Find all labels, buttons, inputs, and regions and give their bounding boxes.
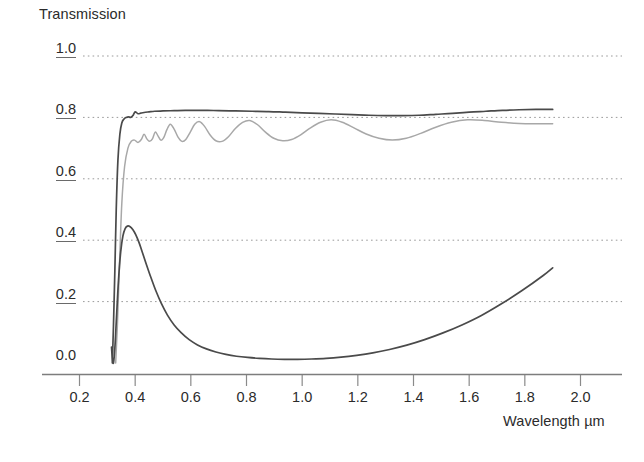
x-tick-label: 2.0 — [570, 389, 590, 405]
upper-transmission-curve — [112, 109, 552, 363]
x-tick-label: 0.4 — [125, 389, 145, 405]
x-tick-label: 1.8 — [515, 389, 535, 405]
x-tick-label: 0.6 — [181, 389, 201, 405]
absorption-transmission-curve — [112, 226, 553, 363]
x-tick-label: 1.2 — [348, 389, 368, 405]
y-tick-label: 0.6 — [36, 163, 76, 181]
gridlines — [83, 56, 622, 302]
y-tick-label: 1.0 — [36, 40, 76, 58]
y-tick-label: 0.4 — [36, 224, 76, 242]
y-tick-label: 0.0 — [36, 347, 76, 364]
y-tick-label: 0.8 — [36, 101, 76, 119]
chart-figure: Transmission Wavelength µm 0.00.20.40.60… — [0, 0, 644, 462]
x-tick-label: 0.2 — [69, 389, 89, 405]
x-tick-marks — [80, 375, 581, 386]
x-tick-label: 1.0 — [292, 389, 312, 405]
data-curves — [112, 109, 553, 363]
plot-area — [0, 0, 644, 462]
interference-fringe-curve — [116, 120, 553, 363]
x-tick-label: 1.4 — [403, 389, 423, 405]
y-tick-label: 0.2 — [36, 286, 76, 304]
x-tick-label: 1.6 — [459, 389, 479, 405]
x-tick-label: 0.8 — [236, 389, 256, 405]
